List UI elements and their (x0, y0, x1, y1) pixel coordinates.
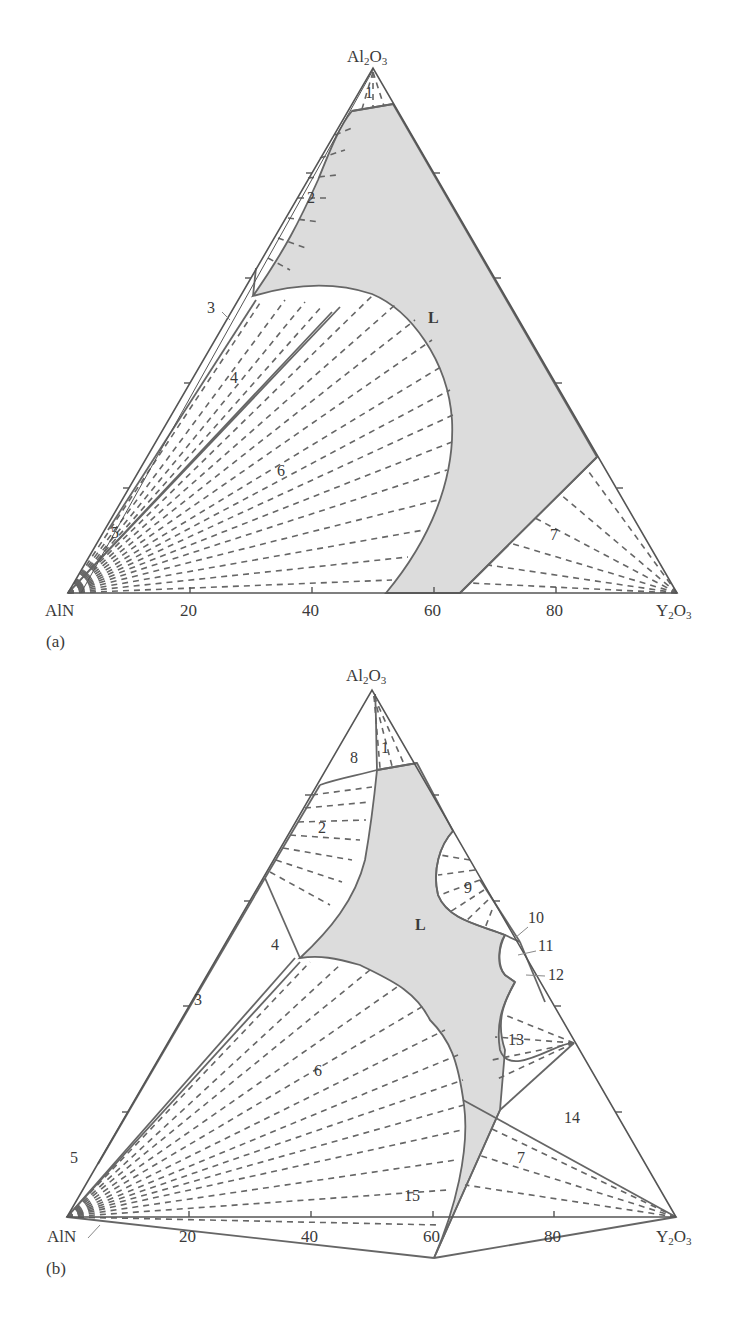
region-label-9-b: 9 (464, 880, 472, 896)
region-label-4-b: 4 (271, 937, 279, 953)
region-label-1-b: 1 (381, 740, 389, 756)
phase-diagram-canvas (0, 0, 744, 1323)
region-label-3-a: 3 (207, 300, 215, 316)
region-label-13-b: 13 (508, 1032, 524, 1048)
region-label-7-b: 7 (517, 1150, 525, 1166)
region-label-7-a: 7 (550, 527, 558, 543)
region-label-4-a: 4 (230, 370, 238, 386)
region-label-6-a: 6 (277, 463, 285, 479)
axis-tick-label-60-b: 60 (423, 1228, 440, 1245)
axis-tick-label-60-a: 60 (424, 602, 441, 619)
tie-lines-region-1-b (374, 696, 404, 768)
vertex-label-al2o3-a: Al2O3 (347, 48, 387, 67)
vertex-label-al2o3-b: Al2O3 (346, 667, 386, 686)
region-label-2-a: 2 (307, 190, 315, 206)
liquid-region-b (300, 763, 515, 1258)
liquid-region-a (253, 104, 597, 593)
region-label-liquid-b: L (415, 917, 426, 933)
region-label-14-b: 14 (564, 1110, 580, 1126)
region-label-liquid-a: L (428, 310, 439, 326)
panel-b (67, 690, 676, 1258)
vertex-label-aln-b: AlN (47, 1228, 76, 1245)
tie-lines-region-6-a (68, 296, 453, 593)
region-label-10-b: 10 (528, 910, 544, 926)
vertex-label-y2o3-b: Y2O3 (656, 1228, 692, 1247)
vertex-label-y2o3-a: Y2O3 (656, 602, 692, 621)
vertex-label-aln-a: AlN (45, 602, 74, 619)
region-label-3-b: 3 (194, 992, 202, 1008)
region-label-8-b: 8 (350, 750, 358, 766)
axis-tick-label-20-a: 20 (180, 602, 197, 619)
region-label-5-b: 5 (70, 1150, 78, 1166)
panel-label-a: (a) (46, 633, 65, 650)
region-label-5-a: 5 (111, 525, 119, 541)
axis-tick-label-20-b: 20 (179, 1228, 196, 1245)
axis-tick-label-80-b: 80 (544, 1228, 561, 1245)
axis-tick-label-40-b: 40 (301, 1228, 318, 1245)
region-label-11-b: 11 (538, 938, 553, 954)
region-label-1-a: 1 (365, 85, 373, 101)
region-label-6-b: 6 (314, 1063, 322, 1079)
tie-lines-region-7-b (465, 1128, 676, 1217)
tie-lines-region-6-b (67, 962, 464, 1225)
region-label-15-b: 15 (404, 1188, 420, 1204)
axis-tick-label-40-a: 40 (302, 602, 319, 619)
region-label-2-b: 2 (318, 820, 326, 836)
panel-a (68, 68, 677, 593)
panel-label-b: (b) (46, 1260, 66, 1277)
region-label-12-b: 12 (548, 967, 564, 983)
axis-tick-label-80-a: 80 (546, 602, 563, 619)
